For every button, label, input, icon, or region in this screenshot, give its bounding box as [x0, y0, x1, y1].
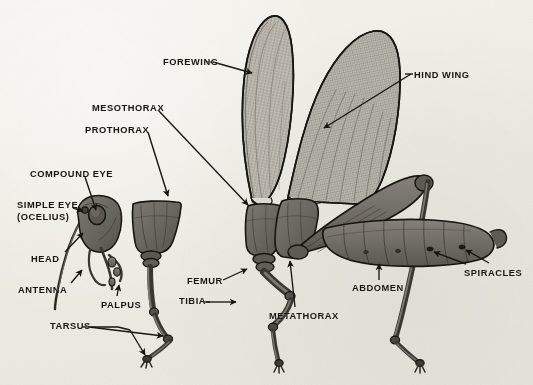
- label-metathorax: METATHORAX: [269, 311, 339, 322]
- label-compound-eye: COMPOUND EYE: [30, 169, 113, 180]
- label-prothorax: PROTHORAX: [85, 125, 149, 136]
- label-antenna: ANTENNA: [18, 285, 67, 296]
- label-abdomen: ABDOMEN: [352, 283, 404, 294]
- label-spiracles: SPIRACLES: [464, 268, 522, 279]
- metathorax-leader: [290, 261, 295, 307]
- spiracles-leader-b: [466, 250, 489, 263]
- hind-wing-leader: [324, 74, 411, 128]
- label-head: HEAD: [31, 254, 60, 265]
- label-palpus: PALPUS: [101, 300, 141, 311]
- label-simple-eye: SIMPLE EYE (OCELIUS): [17, 200, 78, 223]
- spiracles-leader-a: [434, 252, 466, 264]
- label-tarsus: TARSUS: [50, 321, 91, 332]
- femur-leader: [223, 269, 247, 280]
- label-forewing: FOREWING: [163, 57, 219, 68]
- compound-eye-leader: [85, 177, 96, 210]
- antenna-leader: [71, 270, 82, 283]
- head-leader: [65, 233, 83, 252]
- label-femur: FEMUR: [187, 276, 223, 287]
- mesothorax-leader: [158, 110, 248, 205]
- label-hind-wing: HIND WING: [414, 70, 470, 81]
- label-mesothorax: MESOTHORAX: [92, 103, 164, 114]
- tarsus-fork: [118, 327, 130, 330]
- figure-canvas: FOREWING HIND WING MESOTHORAX PROTHORAX …: [0, 0, 533, 385]
- palpus-leader: [117, 285, 119, 296]
- prothorax-leader: [148, 132, 168, 196]
- label-tibia: TIBIA: [179, 296, 206, 307]
